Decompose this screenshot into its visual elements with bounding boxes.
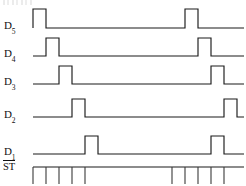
signal-label-d1-base: D [4, 145, 12, 157]
waveform-d1 [33, 136, 244, 154]
signal-label-d4-base: D [4, 47, 12, 59]
signal-label-d2-subscript: 2 [12, 116, 16, 125]
signal-label-d1: D1 [4, 146, 16, 160]
waveform-d5 [33, 9, 244, 28]
signal-label-d5: D5 [4, 20, 16, 34]
waveform-group [33, 9, 244, 154]
signal-label-d3-base: D [4, 75, 12, 87]
signal-label-d3: D3 [4, 76, 16, 90]
signal-label-d3-subscript: 3 [12, 83, 16, 92]
signal-label-d5-base: D [4, 19, 12, 31]
waveform-d2 [33, 99, 244, 117]
timing-waveform-canvas [0, 0, 246, 186]
waveform-d3 [33, 66, 244, 84]
signal-label-d4: D4 [4, 48, 16, 62]
signal-label-st: ST [3, 160, 15, 173]
signal-label-d4-subscript: 4 [12, 55, 16, 64]
signal-label-d2-base: D [4, 108, 12, 120]
signal-label-d5-subscript: 5 [12, 27, 16, 36]
timing-diagram: D5 D4 D3 D2 D1 ST [0, 0, 246, 186]
signal-label-d2: D2 [4, 109, 16, 123]
signal-label-st-text: ST [3, 160, 15, 172]
clock-group [33, 167, 244, 184]
waveform-d4 [33, 38, 244, 56]
